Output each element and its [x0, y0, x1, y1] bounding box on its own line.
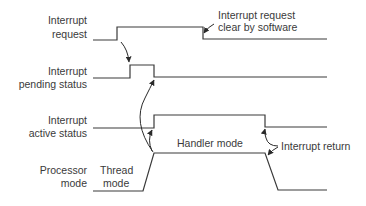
- svg-text:Interrupt: Interrupt: [48, 14, 87, 26]
- label-interrupt-active-status: Interrupt active status: [29, 114, 87, 139]
- label-interrupt-request: Interrupt request: [48, 14, 87, 40]
- interrupt-timing-diagram: Interrupt request Interrupt pending stat…: [0, 0, 366, 206]
- svg-text:mode: mode: [103, 177, 129, 189]
- annotation-interrupt-return: Interrupt return: [281, 140, 351, 152]
- svg-text:clear by software: clear by software: [218, 21, 298, 33]
- svg-text:Interrupt: Interrupt: [48, 65, 87, 77]
- arrow-return-to-mode: [268, 147, 278, 155]
- arrow-request-clear: [204, 24, 214, 33]
- svg-text:Interrupt request: Interrupt request: [218, 9, 295, 21]
- svg-text:pending status: pending status: [19, 78, 87, 90]
- waveform-interrupt-pending-status: [93, 65, 327, 78]
- annotation-handler-mode: Handler mode: [177, 137, 243, 149]
- annotation-thread-mode: Thread mode: [100, 164, 133, 189]
- label-interrupt-pending-status: Interrupt pending status: [19, 65, 87, 90]
- svg-text:mode: mode: [61, 177, 87, 189]
- svg-text:Interrupt: Interrupt: [48, 114, 87, 126]
- waveform-interrupt-active-status: [93, 115, 327, 128]
- svg-text:active status: active status: [29, 127, 87, 139]
- svg-text:Processor: Processor: [40, 164, 88, 176]
- arrow-mode-to-pending-clear: [140, 80, 154, 152]
- svg-text:request: request: [52, 28, 87, 40]
- svg-text:Thread: Thread: [100, 164, 133, 176]
- arrow-return-to-active: [265, 129, 278, 146]
- annotation-request-clear: Interrupt request clear by software: [218, 9, 298, 33]
- label-processor-mode: Processor mode: [40, 164, 88, 189]
- arrow-request-to-pending: [121, 42, 129, 62]
